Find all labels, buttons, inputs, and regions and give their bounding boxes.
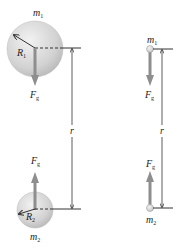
point-mass-m1 (147, 46, 154, 53)
label-fg-top-right: Fg (144, 89, 154, 101)
label-distance-left: r (70, 125, 74, 136)
force-arrow-down-right (146, 50, 154, 86)
label-fg-bottom-left: Fg (30, 155, 40, 167)
label-m1-left: m1 (33, 7, 43, 19)
force-arrow-up-right (146, 171, 154, 207)
label-m2-left: m2 (30, 231, 40, 243)
point-mass-m2 (147, 205, 154, 212)
label-distance-right: r (160, 125, 164, 136)
label-fg-top-left: Fg (29, 89, 39, 101)
label-m1-right: m1 (147, 34, 157, 46)
gravitation-diagram: m1 R1 Fg r Fg R2 m2 m1 Fg r Fg (0, 0, 186, 250)
label-fg-bottom-right: Fg (145, 158, 155, 170)
label-m2-right: m2 (146, 214, 156, 226)
